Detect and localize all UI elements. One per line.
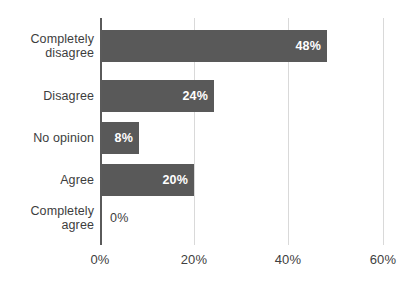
x-tick-label-0: 0%: [70, 252, 130, 267]
gridline-60: [383, 18, 384, 245]
category-label-line1: Agree: [60, 173, 94, 187]
bar-value-completely-disagree: 48%: [295, 30, 321, 62]
x-tick-label-20: 20%: [164, 252, 224, 267]
bar-value-no-opinion: 8%: [115, 122, 133, 154]
bar-value-agree: 20%: [162, 164, 188, 196]
category-label-agree: Agree: [0, 173, 94, 187]
category-label-line1: Completely: [30, 32, 94, 46]
category-label-line1: Completely: [30, 204, 94, 218]
category-label-completely-disagree: Completely disagree: [0, 32, 94, 60]
bar-value-completely-agree: 0%: [110, 202, 128, 234]
category-label-line1: Disagree: [43, 89, 94, 103]
category-label-completely-agree: Completely agree: [0, 204, 94, 232]
category-label-line2: disagree: [45, 46, 94, 60]
bar-chart: Completely disagree 48% Disagree 24% No …: [0, 0, 418, 282]
category-label-line2: agree: [62, 218, 94, 232]
category-label-disagree: Disagree: [0, 89, 94, 103]
bar-disagree[interactable]: 24%: [102, 80, 214, 112]
category-label-line1: No opinion: [33, 131, 94, 145]
bar-no-opinion[interactable]: 8%: [102, 122, 139, 154]
bar-value-disagree: 24%: [182, 80, 208, 112]
category-label-no-opinion: No opinion: [0, 131, 94, 145]
x-tick-label-60: 60%: [353, 252, 413, 267]
bar-completely-disagree[interactable]: 48%: [102, 30, 327, 62]
x-tick-label-40: 40%: [258, 252, 318, 267]
bar-agree[interactable]: 20%: [102, 164, 194, 196]
